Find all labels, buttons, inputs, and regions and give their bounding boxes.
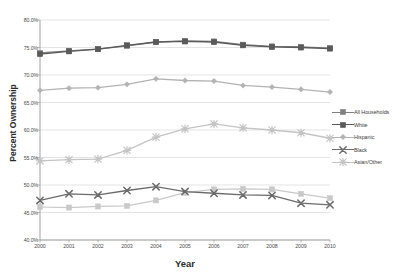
y-axis-tick-label: 65.0%: [6, 100, 38, 106]
y-axis-tick-label: 50.0%: [6, 182, 38, 188]
diamond-marker-icon: [340, 135, 345, 140]
square-marker-icon: [240, 43, 245, 48]
square-marker-icon: [182, 39, 187, 44]
diamond-marker-icon: [95, 85, 100, 90]
chart-container: Percent Ownership Year 40.0%45.0%50.0%55…: [0, 0, 399, 276]
square-marker-icon: [327, 46, 332, 51]
square-marker-icon: [153, 39, 158, 44]
square-marker-icon: [124, 203, 129, 208]
square-marker-icon: [298, 191, 303, 196]
legend-swatch: [332, 120, 354, 130]
square-marker-icon: [153, 198, 158, 203]
star-marker-icon: [339, 159, 346, 166]
star-marker-icon: [338, 157, 349, 168]
star-marker-icon: [181, 125, 188, 132]
legend-label: Hispanic: [354, 134, 374, 140]
chart-legend: All HouseholdsWhiteHispanicBlackAsian/Ot…: [332, 106, 398, 169]
legend-item[interactable]: All Households: [332, 106, 398, 119]
square-marker-icon: [211, 39, 216, 44]
square-marker-icon: [338, 107, 349, 118]
y-axis-tick-label: 60.0%: [6, 127, 38, 133]
legend-item[interactable]: Asian/Other: [332, 156, 398, 169]
series-lower-band: [37, 186, 332, 210]
diamond-marker-icon: [298, 87, 303, 92]
x-axis-title: Year: [40, 258, 330, 269]
diamond-marker-icon: [269, 84, 274, 89]
diamond-marker-icon: [211, 78, 216, 83]
diamond-marker-icon: [338, 132, 349, 143]
star-marker-icon: [123, 147, 130, 154]
square-marker-icon: [298, 45, 303, 50]
diamond-marker-icon: [37, 88, 42, 93]
legend-label: All Households: [354, 109, 389, 115]
square-marker-icon: [340, 122, 345, 127]
legend-swatch: [332, 145, 354, 155]
star-marker-icon: [94, 155, 101, 162]
diamond-marker-icon: [182, 78, 187, 83]
star-marker-icon: [65, 156, 72, 163]
y-axis-tick-labels: 40.0%45.0%50.0%55.0%60.0%65.0%70.0%75.0%…: [0, 0, 38, 276]
star-marker-icon: [268, 126, 275, 133]
square-marker-icon: [269, 44, 274, 49]
diamond-marker-icon: [153, 76, 158, 81]
legend-swatch: [332, 132, 354, 142]
square-marker-icon: [95, 204, 100, 209]
x-marker-icon: [340, 147, 346, 153]
x-axis-tick-label: 2010: [313, 243, 347, 249]
y-axis-tick-label: 45.0%: [6, 210, 38, 216]
square-marker-icon: [269, 187, 274, 192]
square-marker-icon: [240, 186, 245, 191]
square-marker-icon: [338, 119, 349, 130]
legend-item[interactable]: Hispanic: [332, 131, 398, 144]
star-marker-icon: [297, 129, 304, 136]
diamond-marker-icon: [124, 82, 129, 87]
diamond-marker-icon: [66, 86, 71, 91]
square-marker-icon: [340, 110, 345, 115]
legend-label: White: [354, 122, 368, 128]
star-marker-icon: [239, 124, 246, 131]
y-axis-tick-label: 55.0%: [6, 155, 38, 161]
legend-label: Asian/Other: [354, 159, 382, 165]
diamond-marker-icon: [327, 89, 332, 94]
square-marker-icon: [124, 43, 129, 48]
square-marker-icon: [95, 47, 100, 52]
square-marker-icon: [37, 52, 42, 57]
star-marker-icon: [152, 133, 159, 140]
series-black: [37, 183, 333, 208]
square-marker-icon: [37, 204, 42, 209]
legend-item[interactable]: White: [332, 119, 398, 132]
legend-label: Black: [354, 147, 367, 153]
y-axis-tick-label: 80.0%: [6, 17, 38, 23]
series-hispanic: [37, 76, 332, 95]
series-line: [40, 187, 330, 205]
legend-item[interactable]: Black: [332, 144, 398, 157]
square-marker-icon: [66, 49, 71, 54]
x-marker-icon: [338, 144, 349, 155]
legend-swatch: [332, 107, 354, 117]
legend-swatch: [332, 157, 354, 167]
star-marker-icon: [210, 120, 217, 127]
y-axis-tick-label: 70.0%: [6, 72, 38, 78]
diamond-marker-icon: [240, 83, 245, 88]
square-marker-icon: [327, 196, 332, 201]
square-marker-icon: [66, 205, 71, 210]
y-axis-tick-label: 75.0%: [6, 45, 38, 51]
